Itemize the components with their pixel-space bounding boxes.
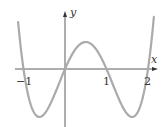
x-tick-label-2: 2 (144, 75, 151, 88)
x-axis-label: x (151, 53, 158, 66)
y-axis-label: y (69, 6, 77, 19)
function-plot: y x −1 1 2 (0, 0, 161, 127)
x-axis-arrow-icon (152, 67, 158, 71)
x-tick-label-1: 1 (103, 75, 110, 88)
polynomial-curve (18, 17, 154, 117)
x-tick-label-neg1: −1 (16, 75, 32, 88)
y-axis-arrow-icon (63, 11, 67, 17)
